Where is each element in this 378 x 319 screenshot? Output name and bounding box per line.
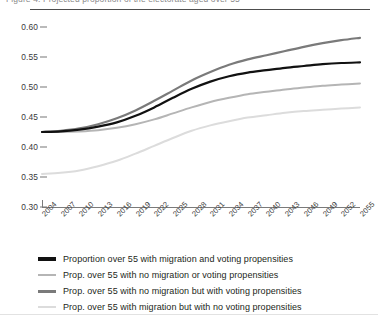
- plot-area: 0.600.550.500.450.400.350.30 20042007201…: [0, 12, 378, 212]
- legend-item[interactable]: Prop. over 55 with no migration or votin…: [38, 268, 368, 282]
- series-line: [42, 83, 360, 132]
- series-lines: [0, 12, 378, 212]
- chart-legend: Proportion over 55 with migration and vo…: [38, 252, 368, 316]
- figure-container: Figure 4: Projected proportion of the el…: [0, 0, 378, 319]
- legend-item-label: Prop. over 55 with no migration or votin…: [63, 270, 278, 280]
- legend-item-label: Prop. over 55 with migration but with no…: [63, 302, 302, 312]
- legend-color-swatch: [38, 274, 56, 277]
- series-line: [42, 62, 360, 132]
- legend-item-label: Prop. over 55 with no migration but with…: [63, 286, 302, 296]
- legend-item[interactable]: Prop. over 55 with migration but with no…: [38, 300, 368, 314]
- legend-item-label: Proportion over 55 with migration and vo…: [63, 254, 293, 264]
- legend-color-swatch: [38, 257, 56, 260]
- footer-divider: [0, 314, 378, 315]
- figure-title-clipped: Figure 4: Projected proportion of the el…: [6, 0, 366, 5]
- legend-item[interactable]: Proportion over 55 with migration and vo…: [38, 252, 368, 266]
- legend-color-swatch: [38, 306, 56, 309]
- series-line: [42, 107, 360, 174]
- legend-item[interactable]: Prop. over 55 with no migration but with…: [38, 284, 368, 298]
- legend-color-swatch: [38, 290, 56, 293]
- header-divider: [30, 9, 370, 10]
